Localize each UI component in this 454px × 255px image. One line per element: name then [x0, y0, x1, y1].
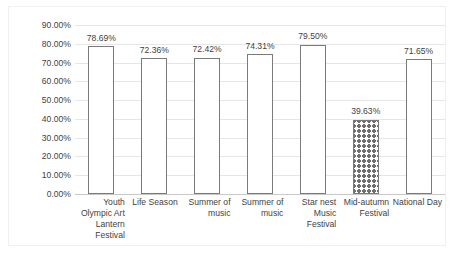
bar-slot: 39.63%	[339, 25, 392, 194]
bar[interactable]	[141, 58, 167, 194]
bar[interactable]	[88, 46, 114, 194]
x-axis-category-label: Star nest Music Festival	[286, 197, 339, 230]
x-axis-category-label: Summer of music	[234, 197, 287, 219]
y-axis-tick-label: 0.00%	[17, 190, 71, 199]
y-axis-tick-label: 40.00%	[17, 115, 71, 124]
y-axis-tick-label: 60.00%	[17, 77, 71, 86]
bar-slot: 74.31%	[234, 25, 287, 194]
y-axis-tick-label: 70.00%	[17, 58, 71, 67]
x-axis-category-label: Life Season	[128, 197, 181, 208]
x-axis: Youth Olympic Art Lantern FestivalLife S…	[75, 197, 445, 255]
bar-slot: 79.50%	[286, 25, 339, 194]
bar[interactable]	[406, 59, 432, 194]
bar-value-label: 72.36%	[140, 46, 169, 55]
bar-slot: 78.69%	[75, 25, 128, 194]
y-axis-tick-label: 90.00%	[17, 21, 71, 30]
bar[interactable]	[247, 54, 273, 194]
bar[interactable]	[300, 45, 326, 194]
bar-slot: 72.36%	[128, 25, 181, 194]
y-axis-tick-label: 30.00%	[17, 133, 71, 142]
y-axis-tick-label: 10.00%	[17, 171, 71, 180]
bar[interactable]	[353, 120, 379, 194]
axis-baseline	[75, 194, 445, 195]
bar-value-label: 79.50%	[298, 32, 327, 41]
bar-value-label: 72.42%	[193, 45, 222, 54]
x-axis-category-label: Summer of music	[181, 197, 234, 219]
y-axis: 90.00%80.00%70.00%60.00%50.00%40.00%30.0…	[17, 25, 71, 194]
chart-container: 90.00%80.00%70.00%60.00%50.00%40.00%30.0…	[8, 6, 446, 246]
bar-slot: 71.65%	[392, 25, 445, 194]
bar-slot: 72.42%	[181, 25, 234, 194]
bar-value-label: 78.69%	[87, 34, 116, 43]
y-axis-tick-label: 50.00%	[17, 96, 71, 105]
bar-value-label: 74.31%	[245, 42, 274, 51]
plot-area: 78.69%72.36%72.42%74.31%79.50%39.63%71.6…	[75, 25, 445, 194]
bar-value-label: 71.65%	[404, 47, 433, 56]
x-axis-category-label: National Day	[392, 197, 445, 208]
x-axis-category-label: Youth Olympic Art Lantern Festival	[75, 197, 128, 241]
x-axis-category-label: Mid-autumn Festival	[339, 197, 392, 219]
bar[interactable]	[194, 58, 220, 194]
bar-value-label: 39.63%	[351, 107, 380, 116]
y-axis-tick-label: 20.00%	[17, 152, 71, 161]
y-axis-tick-label: 80.00%	[17, 39, 71, 48]
